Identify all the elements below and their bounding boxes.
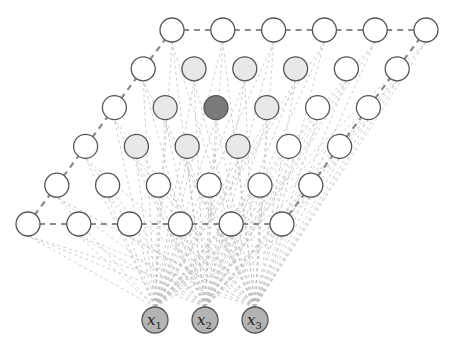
lattice-node bbox=[197, 173, 221, 197]
input-connection-edges bbox=[28, 42, 426, 307]
lattice-node bbox=[160, 18, 184, 42]
lattice-node bbox=[131, 57, 155, 81]
lattice-node bbox=[211, 18, 235, 42]
neighbor-node bbox=[175, 134, 199, 158]
lattice-node bbox=[306, 96, 330, 120]
neighbor-node bbox=[153, 96, 177, 120]
lattice-node bbox=[45, 173, 69, 197]
lattice-node bbox=[74, 134, 98, 158]
lattice-node bbox=[168, 212, 192, 236]
winner-node bbox=[204, 96, 228, 120]
input-edge bbox=[79, 236, 155, 307]
input-nodes: x1x2x3 bbox=[142, 307, 268, 333]
lattice-node bbox=[146, 173, 170, 197]
lattice-node bbox=[16, 212, 40, 236]
lattice-node bbox=[312, 18, 336, 42]
neighbor-node bbox=[255, 96, 279, 120]
lattice-node bbox=[385, 57, 409, 81]
neighbor-node bbox=[226, 134, 250, 158]
lattice-node bbox=[334, 57, 358, 81]
lattice-node bbox=[414, 18, 438, 42]
neighbor-node bbox=[233, 57, 257, 81]
neighbor-node bbox=[182, 57, 206, 81]
input-node-1: x1 bbox=[142, 307, 168, 333]
lattice-node bbox=[277, 134, 301, 158]
neighbor-node bbox=[124, 134, 148, 158]
lattice-node bbox=[67, 212, 91, 236]
lattice-node bbox=[118, 212, 142, 236]
lattice-node bbox=[102, 96, 126, 120]
som-diagram: x1x2x3 bbox=[0, 0, 450, 345]
input-node-3: x3 bbox=[242, 307, 268, 333]
lattice-node bbox=[363, 18, 387, 42]
input-edge bbox=[28, 236, 155, 307]
lattice-node bbox=[262, 18, 286, 42]
lattice-node bbox=[356, 96, 380, 120]
lattice-node bbox=[270, 212, 294, 236]
lattice-node bbox=[328, 134, 352, 158]
input-edge bbox=[205, 42, 375, 307]
input-node-2: x2 bbox=[192, 307, 218, 333]
lattice-node bbox=[96, 173, 120, 197]
lattice-node bbox=[248, 173, 272, 197]
lattice-node bbox=[219, 212, 243, 236]
input-edge bbox=[28, 236, 205, 307]
lattice-node bbox=[299, 173, 323, 197]
neighbor-node bbox=[284, 57, 308, 81]
input-edge bbox=[187, 158, 255, 307]
lattice-nodes bbox=[16, 18, 438, 236]
input-edge bbox=[255, 42, 426, 307]
